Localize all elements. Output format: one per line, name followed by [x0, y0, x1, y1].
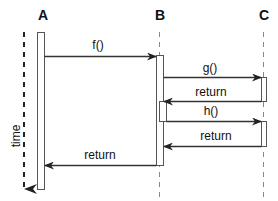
sequence-diagram: A B C time f() g() return h() return ret…: [0, 0, 278, 201]
message-label-return-g: return: [195, 85, 226, 99]
message-label-g: g(): [203, 61, 218, 75]
activation-a: [38, 33, 45, 190]
message-label-return-f: return: [84, 148, 115, 162]
message-label-f: f(): [92, 38, 103, 52]
activation-c-2: [262, 122, 267, 147]
participant-label-b: B: [155, 7, 165, 23]
participant-label-a: A: [38, 7, 48, 23]
activation-c-1: [262, 78, 267, 102]
activation-b-nested: [160, 102, 167, 122]
message-label-h: h(): [204, 104, 219, 118]
participant-label-c: C: [259, 7, 269, 23]
message-label-return-h: return: [200, 129, 231, 143]
time-axis-label: time: [9, 124, 23, 147]
